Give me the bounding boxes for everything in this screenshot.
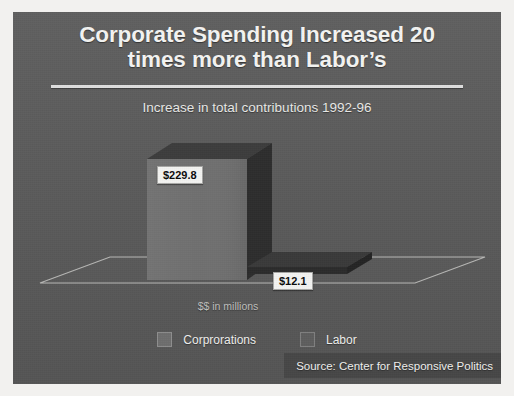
legend-label-labor: Labor xyxy=(326,333,357,347)
legend-item-labor: Labor xyxy=(300,332,357,347)
data-label-corporations: $229.8 xyxy=(157,166,203,184)
legend-swatch-labor xyxy=(300,332,315,347)
value-axis-caption: $$ in millions xyxy=(13,300,443,312)
legend-item-corporations: Corprorations xyxy=(157,332,256,347)
presentation-slide: Corporate Spending Increased 20 times mo… xyxy=(13,12,501,384)
chart-plot-area xyxy=(13,12,501,384)
legend-label-corporations: Corprorations xyxy=(183,333,256,347)
data-label-labor: $12.1 xyxy=(273,272,313,290)
chart-legend: Corprorations Labor xyxy=(13,332,501,347)
source-text: Source: Center for Responsive Politics xyxy=(296,360,493,372)
scanned-page: Corporate Spending Increased 20 times mo… xyxy=(0,0,514,396)
source-strip: Source: Center for Responsive Politics xyxy=(284,353,501,378)
legend-swatch-corporations xyxy=(157,332,172,347)
